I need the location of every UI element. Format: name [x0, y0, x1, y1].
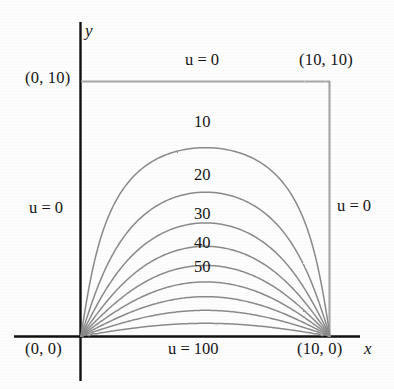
coord-label-origin: (0, 0) [25, 341, 62, 358]
coord-label-top-right: (10, 10) [299, 52, 353, 69]
contour-label-50: 50 [194, 259, 211, 276]
isotherm-90 [81, 323, 330, 336]
isotherm-60 [81, 282, 330, 336]
contour-label-30: 30 [194, 206, 211, 223]
isotherm-50 [81, 265, 330, 336]
contour-label-10: 10 [194, 114, 211, 131]
coord-label-bottom-right: (10, 0) [297, 341, 342, 358]
boundary-condition-bottom: u = 100 [168, 341, 219, 358]
boundary-condition-left: u = 0 [29, 200, 63, 217]
y-axis-label: y [85, 22, 93, 39]
boundary-condition-right: u = 0 [337, 198, 371, 215]
contour-label-20: 20 [194, 167, 211, 184]
coord-label-top-left: (0, 10) [25, 70, 70, 87]
contour-label-40: 40 [194, 235, 211, 252]
boundary-condition-top: u = 0 [185, 52, 219, 69]
contour-plot-figure: (0, 10) (10, 10) (0, 0) (10, 0) u = 0 u … [0, 0, 394, 389]
x-axis-label: x [364, 340, 372, 357]
